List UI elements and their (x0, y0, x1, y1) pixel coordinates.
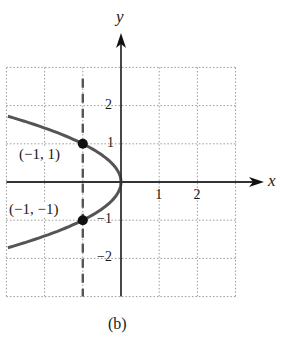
y-tick-label: −2 (97, 250, 112, 264)
y-axis-label: y (116, 8, 124, 25)
x-tick-label: 1 (155, 188, 162, 202)
y-tick-label: 2 (105, 98, 112, 112)
y-tick-label: 1 (107, 136, 114, 150)
y-tick-label: −1 (97, 212, 112, 226)
point-marker (78, 215, 88, 225)
x-axis-label: x (268, 172, 276, 189)
point-marker (78, 139, 88, 149)
x-tick-label: 2 (193, 188, 200, 202)
point-label-lower: (−1, −1) (8, 202, 59, 217)
x-axis (6, 177, 264, 187)
y-axis (116, 33, 126, 297)
figure-caption: (b) (108, 316, 127, 332)
point-label-upper: (−1, 1) (18, 147, 61, 162)
plot-area (0, 0, 288, 339)
